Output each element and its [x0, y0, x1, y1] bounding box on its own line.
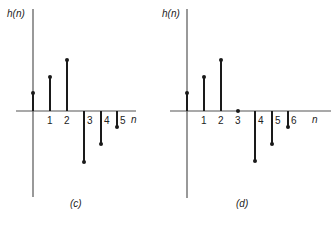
svg-text:3: 3 [87, 115, 93, 126]
y-axis-label: h(n) [162, 8, 180, 19]
sample-point [65, 58, 69, 62]
sample-point [82, 160, 86, 164]
sample-point [31, 91, 35, 95]
sample-point [99, 142, 103, 146]
x-axis-label: n [312, 114, 318, 125]
panel-c: h(n) n 1 2 3 4 5 (c) [7, 8, 137, 209]
sample-point [286, 125, 290, 129]
sample-point [202, 75, 206, 79]
sample-point [253, 159, 257, 163]
svg-text:6: 6 [291, 115, 297, 126]
panel-caption: (c) [70, 198, 82, 209]
impulse-response-diagrams: h(n) n 1 2 3 4 5 (c) h(n) n [0, 0, 334, 225]
sample-point [48, 75, 52, 79]
svg-text:4: 4 [258, 115, 264, 126]
svg-text:1: 1 [47, 115, 53, 126]
svg-text:5: 5 [275, 115, 281, 126]
sample-point [236, 109, 240, 113]
svg-text:1: 1 [201, 115, 207, 126]
tick-labels: 1 2 3 4 5 [47, 115, 126, 126]
sample-point [185, 91, 189, 95]
panel-d: h(n) n 1 2 3 4 5 6 (d) [162, 8, 331, 209]
svg-text:2: 2 [218, 115, 224, 126]
tick-labels: 1 2 3 4 5 6 [201, 115, 297, 126]
sample-point [270, 142, 274, 146]
svg-text:4: 4 [104, 115, 110, 126]
svg-text:3: 3 [235, 115, 241, 126]
svg-text:2: 2 [64, 115, 70, 126]
sample-point [219, 58, 223, 62]
y-axis-label: h(n) [7, 8, 25, 19]
panel-caption: (d) [236, 198, 248, 209]
x-axis-label: n [131, 114, 137, 125]
sample-point [115, 125, 119, 129]
svg-text:5: 5 [120, 115, 126, 126]
